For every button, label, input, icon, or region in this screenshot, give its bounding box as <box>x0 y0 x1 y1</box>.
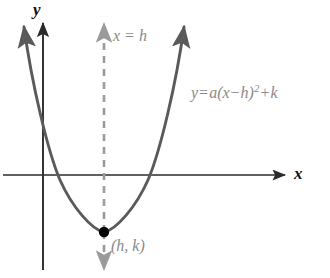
parabola-figure: y x x = h y=a(x−h)2+k (h, k) <box>0 0 330 278</box>
vertex-point-marker <box>99 227 109 237</box>
equation-coefficient-a: a <box>209 84 217 101</box>
equation-parameter-h: h <box>241 84 249 101</box>
equation-plus-sign: + <box>259 84 270 101</box>
equation-minus-sign: − <box>230 84 241 101</box>
vertex-coordinates-label: (h, k) <box>111 238 145 254</box>
graph-canvas <box>0 0 330 278</box>
parabola-right-branch <box>104 27 184 232</box>
equation-parameter-k: k <box>270 84 277 101</box>
equation-equals-sign: = <box>198 84 209 101</box>
equation-variable-x: x <box>222 84 229 101</box>
y-axis-label: y <box>33 1 41 18</box>
x-axis-label: x <box>294 165 303 182</box>
parabola-left-branch <box>24 27 104 232</box>
axis-of-symmetry-label: x = h <box>113 28 147 44</box>
parabola-equation-label: y=a(x−h)2+k <box>191 83 278 101</box>
